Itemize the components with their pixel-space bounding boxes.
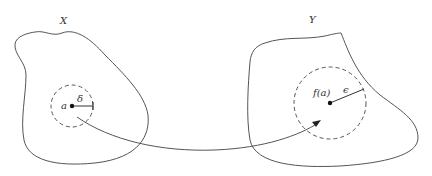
delta-label: δ [77,93,83,104]
set-x-label: X [59,15,68,26]
continuity-diagram: X Y a δ f(a) ϵ [0,0,432,176]
point-a [70,104,74,108]
point-a-label: a [61,100,67,111]
mapping-arrow-curve [77,117,318,150]
point-f-of-a [328,101,332,105]
set-y-boundary [248,33,418,167]
point-f-of-a-label: f(a) [312,87,331,98]
set-y-label: Y [309,14,317,25]
epsilon-label: ϵ [343,84,349,95]
